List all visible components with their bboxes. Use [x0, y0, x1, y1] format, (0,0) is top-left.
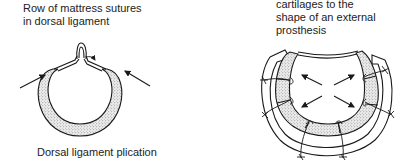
- left-trachea-diagram: [20, 43, 150, 136]
- outward-arrow-upper-left: [302, 75, 322, 85]
- suture-loop-icon: [77, 43, 87, 59]
- dorsal-ligament-right: [86, 56, 106, 69]
- left-cartilage-ring: [38, 69, 122, 136]
- prosthesis-end-right: [372, 55, 385, 64]
- dorsal-ligament-left-inner: [58, 59, 79, 71]
- dorsal-membrane: [298, 51, 358, 55]
- dorsal-ligament-left: [54, 56, 77, 69]
- inward-arrow-right: [125, 71, 150, 86]
- right-cartilage-ring: [276, 51, 379, 136]
- outward-arrow-lower-right: [334, 96, 354, 107]
- right-trachea-diagram: [260, 50, 394, 160]
- diagram-canvas: [0, 0, 410, 165]
- outward-arrow-upper-right: [334, 75, 354, 85]
- dorsal-ligament-right-inner: [84, 59, 102, 71]
- outward-arrow-lower-left: [302, 96, 322, 107]
- suture-loop-inner: [79, 47, 84, 58]
